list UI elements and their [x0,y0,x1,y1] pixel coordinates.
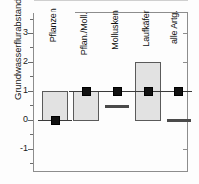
whisker-alle-artg [167,119,191,122]
series-column-mollusken: Mollusken [102,12,133,172]
series-column-alle-artg: alle Artg. [164,12,195,172]
median-marker-pflan-moll [82,87,91,96]
y-tick-label-0: 0 [18,115,28,124]
y-tick-label-1: 1 [18,86,28,95]
whisker-mollusken [105,105,129,108]
median-marker-laufkaefer [144,87,153,96]
zero-baseline [34,0,188,1]
median-marker-mollusken [113,87,122,96]
median-marker-pflanzen [51,116,60,125]
y-tick-label-minus-1: -1 [14,144,28,153]
y-tick-label-3: 3 [18,28,28,37]
series-column-pflan-moll: Pflan./Moll. [71,12,102,172]
box-pflan-moll [73,91,99,121]
series-column-pflanzen: Pflanzen [40,12,71,172]
boxplot-figure: Grundwasserflurabstand [Klassen] 3 2 1 0… [0,0,199,184]
y-tick-label-2: 2 [18,57,28,66]
series-column-laufkaefer: Laufkäfer [133,12,164,172]
median-marker-alle-artg [174,87,183,96]
frame-top-gap-mask [33,12,75,13]
